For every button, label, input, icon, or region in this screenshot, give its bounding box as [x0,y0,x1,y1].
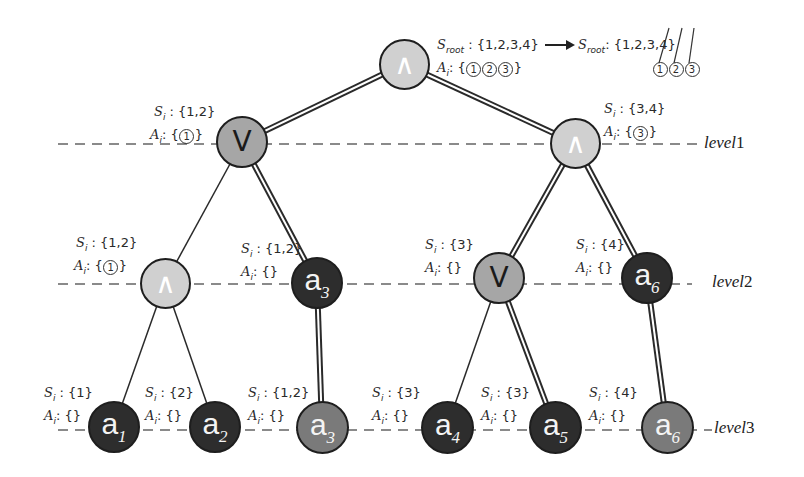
or-icon: V [489,264,508,292]
l5-annotation: Si : {3} Ai: {} [481,384,530,429]
level3-leaf-a4: a4 [421,401,474,454]
root-and-node: ∧ [379,39,430,90]
l6-annotation: Si : {4} Ai: {} [589,384,638,429]
root-annotation: Sroot : {1,2,3,4} Ai: {123} [437,36,539,81]
n6-annotation: Si : {4} Ai: {} [576,236,625,281]
level3-leaf-a2: a2 [189,401,241,453]
n1-annotation: Si : {1,2} Ai: {1} [150,103,215,148]
leaf-label: a4 [435,410,460,446]
leaf-label: a3 [304,265,329,301]
root-result-annotation: Sroot: {1,2,3,4} 123 [578,36,700,77]
level1-and-node: ∧ [550,118,601,169]
l1-annotation: Si : {1} Ai: {} [44,384,93,429]
level2-leaf-a6: a6 [621,252,673,304]
n4-annotation: Si : {1,2} Ai: {} [241,240,302,285]
l2-annotation: Si : {2} Ai: {} [145,384,194,429]
and-icon: ∧ [155,270,176,298]
and-icon: ∧ [565,130,586,158]
level3-label: level3 [714,418,755,438]
transform-arrow-icon [545,40,575,50]
leaf-label: a6 [634,260,659,296]
leaf-label: a5 [543,410,568,446]
or-icon: V [232,128,251,156]
level2-or-node: V [473,252,525,304]
leaf-label: a3 [310,410,335,446]
and-icon: ∧ [394,51,415,79]
n3-annotation: Si : {1,2} Ai: {1} [74,234,137,279]
level1-or-node: V [216,116,268,168]
level3-leaf-a6: a6 [641,401,694,454]
level1-label: level1 [704,133,745,153]
n5-annotation: Si : {3} Ai: {} [425,236,474,281]
level2-label: level2 [712,272,753,292]
level2-and-node: ∧ [140,258,191,309]
leaf-label: a2 [202,409,227,445]
n2-annotation: Si : {3,4} Ai: {3} [604,100,665,145]
level3-leaf-a5: a5 [529,401,582,454]
leaf-label: a6 [655,410,680,446]
leaf-label: a1 [101,409,126,445]
l3-annotation: Si : {1,2} Ai: {} [248,384,309,429]
l4-annotation: Si : {3} Ai: {} [372,384,421,429]
level3-leaf-a1: a1 [88,401,140,453]
